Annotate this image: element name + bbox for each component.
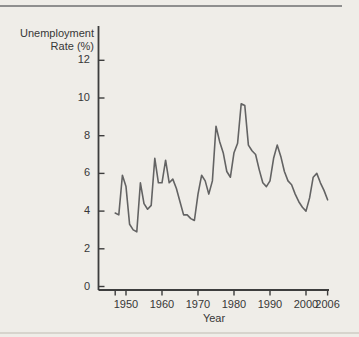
page-background: Unemployment Rate (%) Year 0246810121950… bbox=[0, 0, 359, 337]
y-tick-label-0: 0 bbox=[60, 280, 90, 292]
x-tick-label-2006: 2006 bbox=[310, 298, 346, 310]
unemployment-rate-line-chart bbox=[0, 0, 359, 337]
y-tick-label-6: 6 bbox=[60, 166, 90, 178]
x-tick-label-1960: 1960 bbox=[144, 298, 180, 310]
data-line-unemployment-rate bbox=[115, 104, 327, 232]
x-tick-label-1990: 1990 bbox=[252, 298, 288, 310]
x-tick-label-1970: 1970 bbox=[180, 298, 216, 310]
x-axis-title: Year bbox=[196, 312, 232, 324]
y-tick-label-8: 8 bbox=[60, 129, 90, 141]
x-tick-label-1980: 1980 bbox=[216, 298, 252, 310]
y-tick-label-2: 2 bbox=[60, 242, 90, 254]
y-tick-label-12: 12 bbox=[60, 53, 90, 65]
x-tick-label-1950: 1950 bbox=[108, 298, 144, 310]
y-tick-label-10: 10 bbox=[60, 91, 90, 103]
y-tick-label-4: 4 bbox=[60, 204, 90, 216]
